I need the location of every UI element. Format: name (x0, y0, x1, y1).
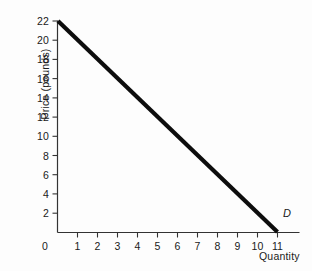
y-tick-label-12: 12 (31, 112, 49, 123)
y-tick-label-4: 4 (31, 189, 49, 200)
x-tick-label-10: 10 (252, 241, 264, 252)
demand-curve-label: D (283, 207, 291, 219)
y-tick-label-18: 18 (31, 54, 49, 65)
x-axis-ticks (78, 233, 278, 238)
x-tick-label-5: 5 (155, 241, 161, 252)
y-tick-label-8: 8 (31, 150, 49, 161)
x-tick-label-3: 3 (115, 241, 121, 252)
x-tick-label-7: 7 (195, 241, 201, 252)
y-tick-label-14: 14 (31, 93, 49, 104)
x-tick-label-2: 2 (95, 241, 101, 252)
x-tick-label-1: 1 (75, 241, 81, 252)
x-tick-label-4: 4 (135, 241, 141, 252)
axes (58, 21, 300, 233)
y-tick-label-16: 16 (31, 73, 49, 84)
chart-canvas: Price (pounds) Quantity D 22 20 18 16 14… (0, 0, 312, 271)
y-tick-label-2: 2 (31, 208, 49, 219)
demand-curve-line (58, 21, 278, 232)
y-tick-label-22: 22 (31, 16, 49, 27)
x-tick-label-11: 11 (272, 241, 283, 252)
y-tick-label-20: 20 (31, 35, 49, 46)
x-tick-label-6: 6 (175, 241, 181, 252)
y-axis-ticks (53, 21, 58, 213)
x-tick-label-8: 8 (215, 241, 221, 252)
x-tick-label-0: 0 (42, 241, 48, 252)
x-tick-label-9: 9 (235, 241, 241, 252)
y-tick-label-6: 6 (31, 169, 49, 180)
y-tick-label-10: 10 (31, 131, 49, 142)
